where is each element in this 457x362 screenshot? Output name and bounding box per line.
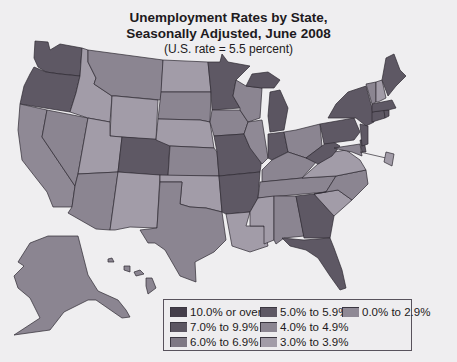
legend-swatch (342, 307, 359, 317)
legend-label: 6.0% to 6.9% (190, 336, 258, 348)
state-me (382, 54, 406, 96)
legend-column-1: 10.0% or over 7.0% to 9.9% 6.0% to 6.9% (170, 304, 262, 349)
state-nd (161, 60, 211, 92)
legend-column-2: 5.0% to 5.9% 4.0% to 4.9% 3.0% to 3.9% (260, 304, 348, 349)
dc-callout-line (360, 152, 386, 158)
state-nm (110, 172, 160, 230)
legend-swatch (260, 337, 277, 347)
state-fl (282, 238, 346, 290)
state-hi-4 (146, 278, 156, 294)
legend-item-6-to-6-9: 6.0% to 6.9% (170, 334, 262, 349)
state-hi-1 (108, 258, 114, 262)
legend-item-5-to-5-9: 5.0% to 5.9% (260, 304, 348, 319)
state-mi-lower (268, 90, 288, 132)
state-pa (320, 118, 360, 144)
legend-item-4-to-4-9: 4.0% to 4.9% (260, 319, 348, 334)
state-sd (158, 92, 211, 122)
legend-item-3-to-3-9: 3.0% to 3.9% (260, 334, 348, 349)
legend-item-0-to-2-9: 0.0% to 2.9% (342, 304, 430, 319)
legend-item-10-or-over: 10.0% or over (170, 304, 262, 319)
legend-label: 4.0% to 4.9% (280, 321, 348, 333)
legend-swatch (170, 307, 187, 317)
legend-label: 5.0% to 5.9% (280, 306, 348, 318)
state-mi (246, 72, 280, 88)
legend-swatch (260, 307, 277, 317)
legend-swatch (260, 322, 277, 332)
state-wy (110, 96, 158, 140)
state-ri (384, 110, 389, 118)
state-hi-3 (134, 270, 144, 276)
legend-label: 0.0% to 2.9% (362, 306, 430, 318)
state-hi-2 (124, 266, 130, 272)
map-legend: 10.0% or over 7.0% to 9.9% 6.0% to 6.9% … (163, 299, 412, 351)
legend-item-7-to-9-9: 7.0% to 9.9% (170, 319, 262, 334)
legend-label: 10.0% or over (190, 306, 262, 318)
legend-swatch (170, 322, 187, 332)
legend-label: 7.0% to 9.9% (190, 321, 258, 333)
state-ks (168, 146, 219, 176)
state-dc (384, 152, 394, 166)
legend-label: 3.0% to 3.9% (280, 336, 348, 348)
legend-column-3: 0.0% to 2.9% (342, 304, 430, 319)
legend-swatch (170, 337, 187, 347)
state-ak (14, 236, 130, 335)
state-ne (156, 119, 214, 148)
